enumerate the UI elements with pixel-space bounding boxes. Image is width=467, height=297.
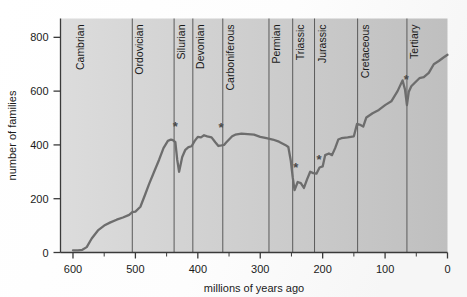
y-tick-label-600: 600 (30, 85, 48, 97)
period-label-carboniferous: Carboniferous (224, 25, 236, 91)
x-axis-title: millions of years ago (204, 282, 304, 294)
period-label-tertiary: Tertiary (408, 24, 420, 59)
period-label-cretaceous: Cretaceous (359, 25, 371, 79)
x-tick-label-500: 500 (126, 263, 144, 275)
period-label-permian: Permian (270, 24, 282, 63)
y-tick-label-800: 800 (30, 31, 48, 43)
y-axis-title: number of families (6, 90, 18, 180)
period-label-jurassic: Jurassic (316, 25, 328, 64)
x-tick-label-100: 100 (376, 263, 394, 275)
period-label-cambrian: Cambrian (74, 24, 86, 70)
x-tick-label-600: 600 (64, 263, 82, 275)
y-tick-label-0: 0 (42, 247, 48, 259)
x-tick-label-400: 400 (189, 263, 207, 275)
x-tick-label-200: 200 (313, 263, 331, 275)
diversity-chart-svg: CambrianOrdovicianSilurianDevonianCarbon… (0, 0, 467, 297)
chart-figure: CambrianOrdovicianSilurianDevonianCarbon… (0, 0, 467, 297)
period-label-devonian: Devonian (194, 24, 206, 69)
x-tick-label-300: 300 (251, 263, 269, 275)
period-label-silurian: Silurian (175, 24, 187, 59)
period-label-triassic: Triassic (294, 25, 306, 61)
period-label-ordovician: Ordovician (133, 24, 145, 74)
x-tick-label-0: 0 (444, 263, 450, 275)
y-tick-label-200: 200 (30, 193, 48, 205)
y-tick-label-400: 400 (30, 139, 48, 151)
